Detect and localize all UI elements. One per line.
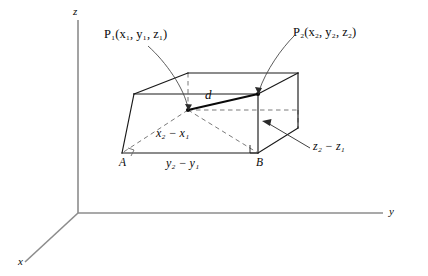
point-p1-label: P₁(x₁, y₁, z₁)	[104, 28, 167, 41]
box-edge-front-left	[122, 94, 134, 153]
x-axis-label: x	[18, 256, 23, 267]
box-edge-top-right-diagonal	[258, 73, 298, 94]
vertex-b-label: B	[256, 157, 263, 169]
z-axis-label: z	[73, 6, 77, 17]
box-edge-bottom-right-diagonal	[258, 128, 298, 153]
box-visible-edges	[122, 73, 298, 153]
inner-diagonals	[122, 110, 258, 153]
point-p2-label: P₂(x₂, y₂, z₂)	[293, 26, 356, 39]
dimension-arrowhead-dz	[262, 119, 272, 126]
dimension-label-dz: z₂ − z₁	[313, 140, 345, 152]
dimension-label-dx: x₂ − x₁	[156, 127, 189, 139]
box-edge-top-left-diagonal	[134, 73, 188, 94]
leader-curve-p2	[259, 36, 294, 91]
figure-canvas: z y x P₁(x₁, y₁, z₁) P₂(x₂, y₂, z₂) d A …	[0, 0, 428, 276]
distance-formula-diagram	[0, 0, 428, 276]
x-axis	[25, 213, 78, 262]
dimension-label-dy: y₂ − y₁	[166, 157, 199, 169]
leader-curve-p1	[148, 46, 188, 108]
vertex-a-label: A	[119, 157, 126, 169]
distance-segment-d	[188, 94, 258, 110]
diagonal-p1-to-b	[188, 110, 258, 153]
right-angle-marker-a	[128, 148, 134, 156]
distance-label-d: d	[205, 88, 212, 101]
y-axis-label: y	[389, 206, 394, 217]
